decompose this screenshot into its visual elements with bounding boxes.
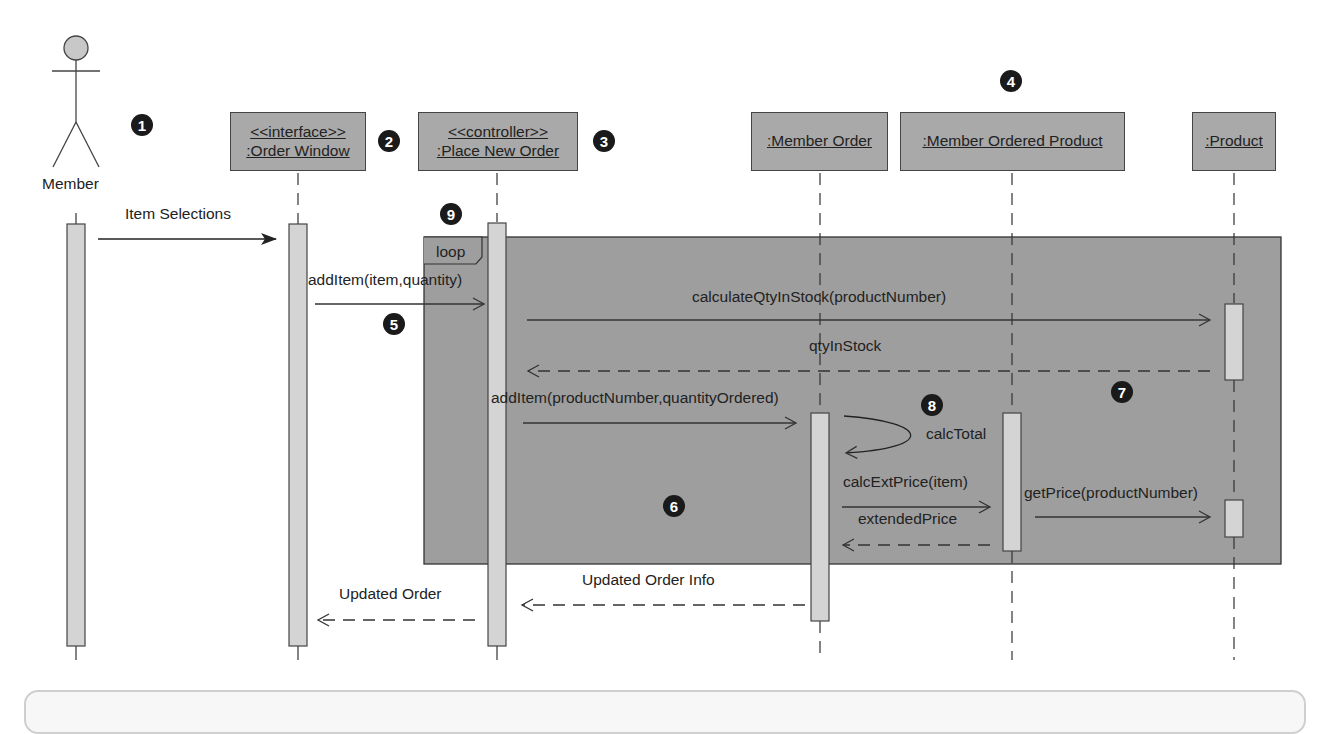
object-member-order[interactable]: :Member Order (751, 112, 888, 171)
activation-product-2 (1225, 500, 1243, 537)
msg-qtyinstock-label: qtyInStock (809, 338, 881, 354)
msg-extendedprice-label: extendedPrice (858, 511, 957, 527)
actor-icon (52, 36, 100, 167)
callout-badge-5: 5 (383, 313, 405, 335)
activation-order-window (289, 224, 307, 646)
callout-badge-3: 3 (593, 130, 615, 152)
actor-label: Member (42, 176, 99, 192)
activation-member-order (811, 413, 829, 621)
callout-badge-1: 1 (131, 114, 153, 136)
object-stereotype: <<controller>> (448, 123, 548, 142)
callout-badge-9: 9 (440, 203, 462, 225)
object-name: :Place New Order (437, 142, 559, 161)
callout-badge-8: 8 (921, 394, 943, 416)
msg-calcqty-label: calculateQtyInStock(productNumber) (692, 289, 946, 305)
object-product[interactable]: :Product (1192, 112, 1276, 171)
msg-calcextprice-label: calcExtPrice(item) (843, 474, 968, 490)
loop-operator-label: loop (436, 243, 465, 261)
object-name: :Product (1205, 132, 1263, 151)
object-name: :Member Order (767, 132, 872, 151)
callout-badge-6: 6 (663, 495, 685, 517)
msg-updated-order-info-label: Updated Order Info (582, 572, 715, 588)
callout-badge-7: 7 (1111, 381, 1133, 403)
activation-member (67, 224, 85, 646)
object-member-ordered-product[interactable]: :Member Ordered Product (900, 112, 1125, 171)
object-place-new-order[interactable]: <<controller>> :Place New Order (418, 112, 578, 171)
msg-additem-item-label: addItem(item,quantity) (308, 272, 462, 288)
callout-badge-2: 2 (378, 130, 400, 152)
activation-place-new-order (488, 223, 506, 646)
msg-additem-product-label: addItem(productNumber,quantityOrdered) (491, 390, 779, 406)
callout-badge-4: 4 (1000, 70, 1022, 92)
msg-item-selections-label: Item Selections (125, 206, 231, 222)
object-stereotype: <<interface>> (250, 123, 346, 142)
activation-member-ordered-product (1003, 413, 1021, 551)
object-name: :Member Ordered Product (922, 132, 1102, 151)
activation-product-1 (1225, 304, 1243, 380)
object-order-window[interactable]: <<interface>> :Order Window (230, 112, 366, 171)
msg-updated-order-label: Updated Order (339, 586, 442, 602)
object-name: :Order Window (246, 142, 349, 161)
msg-calctotal-label: calcTotal (926, 426, 986, 442)
msg-getprice-label: getPrice(productNumber) (1024, 485, 1198, 501)
caption-frame (24, 690, 1306, 734)
